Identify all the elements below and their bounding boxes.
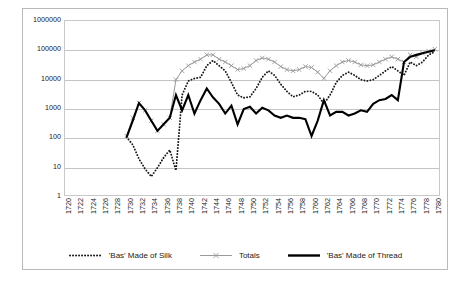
legend-label: Totals [239,251,260,260]
x-axis-tick-label: 1774 [398,198,406,214]
y-axis-tick-label: 1 [57,192,61,200]
x-axis-tick-label: 1770 [373,198,381,214]
x-axis-tick-label: 1750 [250,198,258,214]
x-axis-tick-label: 1734 [151,198,159,214]
x-axis-tick-label: 1748 [238,198,246,214]
x-axis-tick-label: 1742 [201,198,209,214]
x-axis-tick-label: 1752 [262,198,270,214]
x-axis-tick-label: 1738 [176,198,184,214]
legend-swatch-icon [286,251,322,260]
y-axis-tick-label: 100000 [37,45,61,53]
x-axis-tick-label: 1730 [127,198,135,214]
x-axis-tick-label: 1772 [386,198,394,214]
series-line [127,50,435,137]
plot-area [64,20,440,196]
x-axis-tick-label: 1776 [410,198,418,214]
x-axis-tick-label: 1766 [349,198,357,214]
x-axis-tick-label: 1744 [213,198,221,214]
x-axis-tick-label: 1764 [336,198,344,214]
legend-label: 'Bas' Made of Silk [109,251,172,260]
x-axis-tick-label: 1760 [312,198,320,214]
x-axis-tick-label: 1758 [299,198,307,214]
x-axis-tick-label: 1724 [90,198,98,214]
series-line [127,49,435,136]
y-axis-tick-label: 10 [53,163,61,171]
y-axis-tick-label: 10000 [41,75,61,83]
x-axis-tick-label: 1720 [65,198,73,214]
x-axis-tick-label: 1740 [188,198,196,214]
x-axis-tick-label: 1732 [139,198,147,214]
y-axis-tick-label: 100 [49,133,61,141]
x-axis-tick-label: 1756 [287,198,295,214]
x-axis-tick-label: 1722 [77,198,85,214]
legend-label: 'Bas' Made of Thread [327,251,402,260]
x-axis-tick-label: 1780 [435,198,443,214]
legend-item: 'Bas' Made of Silk [68,251,172,260]
legend-item: 'Bas' Made of Thread [286,251,402,260]
plot-series-svg [65,21,441,197]
y-axis-tick-label: 1000000 [33,16,61,24]
x-axis-tick-label: 1768 [361,198,369,214]
chart-container: 1000000100000100001000100101 17201722172… [0,0,469,286]
series-line [127,52,435,177]
x-axis: 1720172217241726172817301732173417361738… [64,198,440,244]
x-axis-tick-label: 1746 [225,198,233,214]
chart-legend: 'Bas' Made of SilkTotals'Bas' Made of Th… [30,248,440,262]
y-axis-tick-label: 1000 [45,104,61,112]
legend-item: Totals [198,251,260,260]
x-axis-tick-label: 1726 [102,198,110,214]
y-axis: 1000000100000100001000100101 [22,8,64,204]
x-axis-tick-label: 1754 [275,198,283,214]
x-axis-tick-label: 1762 [324,198,332,214]
x-axis-tick-label: 1728 [114,198,122,214]
legend-swatch-icon [68,251,104,260]
x-axis-tick-label: 1778 [423,198,431,214]
x-axis-tick-label: 1736 [164,198,172,214]
legend-swatch-icon [198,251,234,260]
